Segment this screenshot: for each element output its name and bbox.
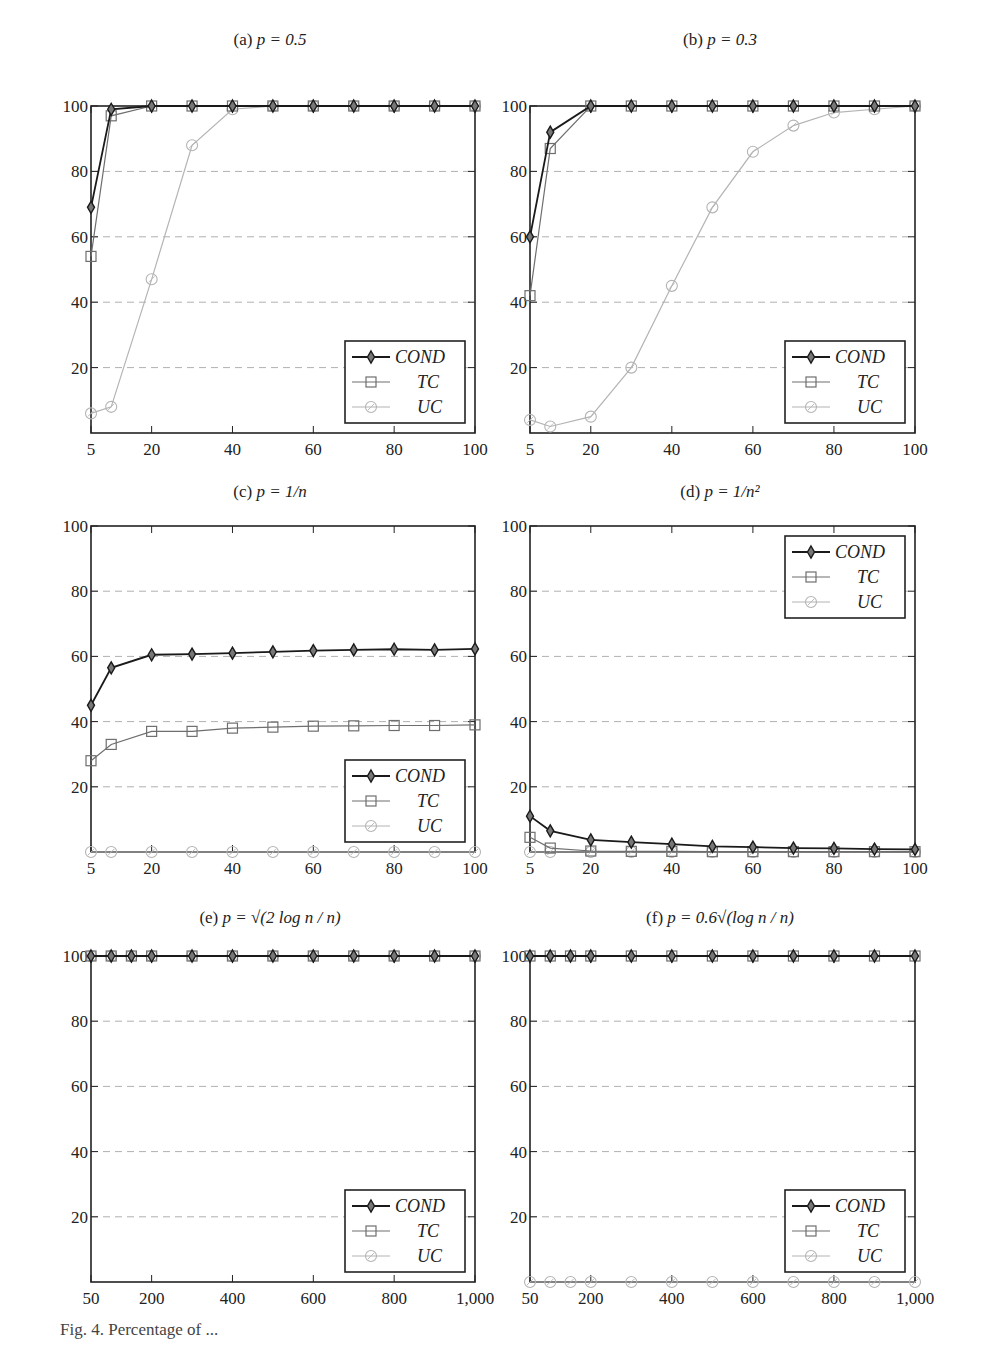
y-tick-label: 80 (71, 582, 88, 601)
legend-label: TC (417, 791, 440, 811)
cond-diamond-marker-icon (709, 840, 716, 852)
cond-diamond-marker-icon (912, 100, 919, 112)
x-tick-label: 50 (83, 1289, 100, 1308)
uc-circle-marker-icon (545, 421, 556, 432)
cond-diamond-marker-icon (148, 649, 155, 661)
series-tc (525, 101, 920, 301)
y-tick-label: 20 (510, 1208, 527, 1227)
y-tick-label: 80 (71, 1012, 88, 1031)
chart-svg-f: 502004006008001,00020406080100CONDTCUC (490, 878, 950, 1318)
x-tick-label: 50 (522, 1289, 539, 1308)
cond-diamond-marker-icon (472, 643, 479, 655)
cond-diamond-marker-icon (587, 950, 594, 962)
cond-diamond-marker-icon (709, 950, 716, 962)
grid-lines (91, 1021, 475, 1217)
legend-label: COND (835, 347, 885, 367)
y-axis: 20406080100 (502, 947, 916, 1227)
x-tick-label: 20 (143, 859, 160, 878)
cond-diamond-marker-icon (350, 100, 357, 112)
legend: CONDTCUC (345, 1190, 465, 1272)
x-tick-label: 600 (740, 1289, 766, 1308)
y-tick-label: 80 (510, 582, 527, 601)
figure-caption: Fig. 4. Percentage of ... (60, 1320, 218, 1340)
legend-label: TC (857, 567, 880, 587)
cond-diamond-marker-icon (547, 126, 554, 138)
x-tick-label: 100 (462, 859, 488, 878)
cond-diamond-marker-icon (189, 950, 196, 962)
series-tc (86, 101, 480, 261)
y-axis: 20406080100 (63, 97, 476, 378)
grid-lines (530, 1021, 915, 1217)
cond-diamond-marker-icon (472, 950, 479, 962)
y-tick-label: 80 (510, 1012, 527, 1031)
cond-diamond-marker-icon (871, 950, 878, 962)
cond-diamond-marker-icon (749, 100, 756, 112)
legend: CONDTCUC (345, 760, 465, 842)
cond-diamond-marker-icon (830, 950, 837, 962)
legend: CONDTCUC (785, 1190, 905, 1272)
cond-diamond-marker-icon (587, 834, 594, 846)
series-tc (525, 832, 920, 856)
cond-diamond-marker-icon (431, 100, 438, 112)
cond-diamond-marker-icon (547, 825, 554, 837)
x-tick-label: 1,000 (896, 1289, 934, 1308)
cond-diamond-marker-icon (128, 950, 135, 962)
cond-diamond-marker-icon (350, 950, 357, 962)
x-tick-label: 200 (139, 1289, 165, 1308)
cond-diamond-marker-icon (229, 950, 236, 962)
cond-diamond-marker-icon (88, 950, 95, 962)
y-tick-label: 100 (63, 517, 89, 536)
legend-label: UC (417, 1246, 443, 1266)
cond-diamond-marker-icon (269, 100, 276, 112)
legend: CONDTCUC (345, 341, 465, 423)
uc-circle-marker-icon (106, 401, 117, 412)
y-tick-label: 80 (71, 162, 88, 181)
y-tick-label: 20 (510, 359, 527, 378)
chart-svg-e: 502004006008001,00020406080100CONDTCUC (40, 878, 500, 1318)
cond-diamond-marker-icon (148, 100, 155, 112)
cond-diamond-marker-icon (148, 950, 155, 962)
cond-diamond-marker-icon (790, 950, 797, 962)
cond-diamond-marker-icon (269, 950, 276, 962)
y-tick-label: 60 (71, 1077, 88, 1096)
cond-diamond-marker-icon (350, 644, 357, 656)
y-tick-label: 60 (510, 1077, 527, 1096)
x-tick-label: 80 (825, 859, 842, 878)
y-tick-label: 100 (502, 517, 528, 536)
x-tick-label: 800 (821, 1289, 847, 1308)
cond-diamond-marker-icon (391, 643, 398, 655)
cond-diamond-marker-icon (912, 950, 919, 962)
cond-diamond-marker-icon (431, 644, 438, 656)
x-tick-label: 60 (305, 859, 322, 878)
legend-label: COND (395, 766, 445, 786)
cond-diamond-marker-icon (472, 100, 479, 112)
y-tick-label: 60 (71, 647, 88, 666)
legend-label: TC (417, 372, 440, 392)
x-tick-label: 600 (301, 1289, 327, 1308)
cond-diamond-marker-icon (391, 100, 398, 112)
cond-diamond-marker-icon (668, 950, 675, 962)
x-tick-label: 100 (902, 859, 928, 878)
chart-svg-c: 52040608010020406080100CONDTCUC (40, 452, 500, 892)
y-tick-label: 60 (71, 228, 88, 247)
x-tick-label: 1,000 (456, 1289, 494, 1308)
legend-label: COND (395, 1196, 445, 1216)
y-tick-label: 100 (502, 97, 528, 116)
series-uc (86, 847, 481, 858)
cond-diamond-marker-icon (310, 950, 317, 962)
y-tick-label: 40 (510, 713, 527, 732)
cond-diamond-marker-icon (871, 843, 878, 855)
series-cond (88, 643, 479, 711)
legend-label: TC (857, 372, 880, 392)
legend-label: UC (857, 397, 883, 417)
legend-label: UC (417, 397, 443, 417)
cond-diamond-marker-icon (628, 100, 635, 112)
legend-label: UC (857, 1246, 883, 1266)
cond-diamond-marker-icon (668, 100, 675, 112)
series-cond (88, 100, 479, 213)
y-tick-label: 80 (510, 162, 527, 181)
y-tick-label: 20 (71, 778, 88, 797)
uc-circle-marker-icon (707, 202, 718, 213)
uc-circle-marker-icon (747, 146, 758, 157)
cond-diamond-marker-icon (790, 100, 797, 112)
